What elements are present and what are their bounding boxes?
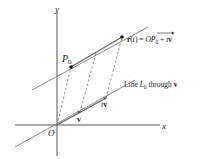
line-l0-label: Line L0 through v <box>124 80 178 90</box>
point-rt <box>120 35 124 39</box>
origin-label: O <box>48 128 55 138</box>
equation-label: r(t) = OP0 + tv <box>127 35 172 45</box>
line-l0-thick-segment <box>57 98 106 125</box>
y-axis-label: y <box>54 4 59 14</box>
v-label: v <box>77 115 81 124</box>
line-l0 <box>15 80 135 147</box>
p0-label: P0 <box>61 53 72 66</box>
tv-label: tv <box>101 100 107 109</box>
vector-arrowhead-icon <box>172 32 175 35</box>
x-axis-label: x <box>161 121 166 131</box>
line-through-p0-thick-segment <box>71 37 122 67</box>
vector-line-diagram: y x O P0 v tv r(t) = OP0 + tv Line L0 th… <box>0 0 205 159</box>
